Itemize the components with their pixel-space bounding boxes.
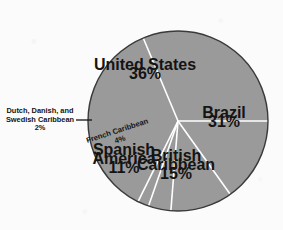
pie-label-line: 15%	[160, 165, 192, 182]
pie-slice-label: Brazil31%	[202, 104, 246, 130]
pie-chart-figure: Brazil31%United States36%Dutch, Danish, …	[0, 0, 283, 230]
pie-chart-canvas: Brazil31%United States36%Dutch, Danish, …	[0, 0, 283, 230]
pie-slice-label: Dutch, Danish, andSwedish Caribbean2%	[6, 106, 75, 132]
pie-label-line: 11%	[108, 159, 139, 176]
pie-label-line: 31%	[208, 113, 240, 130]
pie-label-line: 2%	[35, 123, 46, 132]
pie-label-line: 36%	[129, 65, 161, 82]
